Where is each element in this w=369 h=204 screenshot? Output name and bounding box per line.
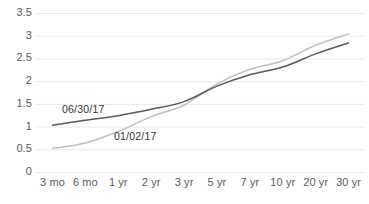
x-axis-tick-label: 1 yr — [102, 176, 135, 192]
y-axis-tick-label: 2.5 — [4, 52, 32, 63]
x-axis-tick-label: 7 yr — [233, 176, 266, 192]
series-line-01-02-17 — [52, 34, 348, 148]
y-axis-tick-label: 0 — [4, 166, 32, 177]
x-axis-tick-label: 5 yr — [201, 176, 234, 192]
x-axis-tick-label: 2 yr — [135, 176, 168, 192]
series-lines — [52, 34, 348, 148]
chart-plot-area — [0, 0, 369, 204]
y-axis-tick-label: 1 — [4, 121, 32, 132]
y-axis-tick-label: 3.5 — [4, 7, 32, 18]
x-axis-tick-label: 10 yr — [266, 176, 299, 192]
x-axis: 3 mo6 mo1 yr2 yr3 yr5 yr7 yr10 yr20 yr30… — [36, 176, 365, 192]
x-axis-tick-label: 6 mo — [69, 176, 102, 192]
series-annotation-01-02-17: 01/02/17 — [114, 131, 156, 142]
y-axis-tick-label: 0.5 — [4, 143, 32, 154]
series-annotation-06-30-17: 06/30/17 — [62, 104, 104, 115]
y-axis-tick-label: 2 — [4, 75, 32, 86]
x-axis-tick-label: 30 yr — [332, 176, 365, 192]
x-axis-tick-label: 3 yr — [168, 176, 201, 192]
y-axis-tick-label: 3 — [4, 30, 32, 41]
x-axis-tick-label: 3 mo — [36, 176, 69, 192]
x-axis-tick-label: 20 yr — [299, 176, 332, 192]
y-axis-tick-label: 1.5 — [4, 98, 32, 109]
y-axis: 00.511.522.533.5 — [2, 0, 32, 204]
yield-curve-chart: 00.511.522.533.5 3 mo6 mo1 yr2 yr3 yr5 y… — [0, 0, 369, 204]
gridlines — [36, 14, 365, 173]
